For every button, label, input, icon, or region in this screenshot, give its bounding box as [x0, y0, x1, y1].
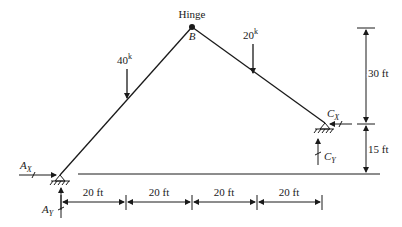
support-a [50, 175, 70, 185]
reaction-ay-sub: Y [49, 209, 55, 218]
pin-support-icon [320, 123, 330, 129]
svg-text:CX: CX [327, 107, 340, 122]
dim-label-h1: 20 ft [83, 186, 103, 198]
svg-text:20k: 20k [243, 27, 258, 41]
reaction-cx-sub: X [333, 113, 340, 122]
hinge-label: Hinge [179, 8, 206, 20]
load-40k-value: 40 [117, 54, 129, 66]
dim-label-h4: 20 ft [279, 186, 299, 198]
load-40k-unit: k [128, 52, 132, 61]
load-20k-value: 20 [243, 29, 255, 41]
joint-b-label: B [189, 30, 196, 42]
svg-text:AY: AY [41, 203, 55, 218]
reaction-ax: AX [19, 159, 56, 178]
load-20k-unit: k [254, 27, 258, 36]
reaction-cy: CY [315, 139, 337, 165]
svg-text:CY: CY [324, 150, 337, 165]
reaction-cx: CX [327, 107, 352, 127]
dim-label-h3: 20 ft [214, 186, 234, 198]
svg-text:40k: 40k [117, 52, 132, 66]
reaction-ax-sub: X [26, 165, 33, 174]
reaction-cy-sub: Y [331, 156, 337, 165]
dim-label-30ft: 30 ft [368, 67, 388, 79]
frame-diagram: Hinge B 40k 20k AX [0, 0, 402, 227]
load-40k: 40k [117, 52, 132, 98]
member-bc [192, 27, 325, 123]
dim-label-15ft: 15 ft [368, 143, 388, 155]
pin-support-icon [55, 175, 65, 181]
frame-members [60, 27, 325, 175]
svg-text:AX: AX [19, 159, 33, 174]
member-ab [60, 27, 192, 175]
dim-label-h2: 20 ft [149, 186, 169, 198]
ground-hatch-icon [50, 181, 69, 185]
ground-hatch-icon [314, 129, 333, 133]
